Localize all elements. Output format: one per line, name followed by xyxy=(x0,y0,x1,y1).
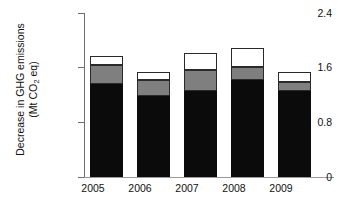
bar-segment-white-segment-2007 xyxy=(184,53,217,70)
bar-2009 xyxy=(278,72,311,177)
y-axis-title-unit-suffix: eq) xyxy=(27,61,39,79)
bar-2007 xyxy=(184,53,217,177)
y-axis-title-line2: (Mt CO2 eq) xyxy=(27,23,43,155)
y-axis-title-line1: Decrease in GHG emissions xyxy=(14,23,27,155)
bar-segment-gray-segment-2006 xyxy=(137,80,170,96)
x-tick-label-2006: 2006 xyxy=(118,182,162,194)
bar-2008 xyxy=(231,48,264,177)
bar-segment-gray-segment-2008 xyxy=(231,67,264,80)
bar-segment-white-segment-2008 xyxy=(231,48,264,67)
bar-2005 xyxy=(90,56,123,177)
x-tick-label-2008: 2008 xyxy=(212,182,256,194)
y-axis-title-unit-prefix: (Mt CO xyxy=(27,83,39,117)
x-tick-label-2007: 2007 xyxy=(165,182,209,194)
bar-segment-black-segment-2008 xyxy=(231,80,264,177)
y-tick-mark-0 xyxy=(78,177,84,178)
bar-segment-black-segment-2009 xyxy=(278,91,311,177)
bar-segment-white-segment-2009 xyxy=(278,72,311,82)
x-tick-label-2009: 2009 xyxy=(259,182,303,194)
bar-segment-black-segment-2005 xyxy=(90,84,123,177)
bar-segment-white-segment-2005 xyxy=(90,56,123,65)
bar-segment-white-segment-2006 xyxy=(137,72,170,80)
chart-figure: Decrease in GHG emissions (Mt CO2 eq) 0 … xyxy=(0,0,342,206)
bar-segment-gray-segment-2007 xyxy=(184,70,217,91)
x-tick-label-2005: 2005 xyxy=(71,182,115,194)
bar-segment-black-segment-2007 xyxy=(184,91,217,177)
plot-area xyxy=(84,13,332,177)
bar-segment-black-segment-2006 xyxy=(137,96,170,177)
y-axis-title: Decrease in GHG emissions (Mt CO2 eq) xyxy=(0,0,56,178)
bar-segment-gray-segment-2009 xyxy=(278,82,311,91)
bar-2006 xyxy=(137,72,170,177)
bar-segment-gray-segment-2005 xyxy=(90,65,123,84)
